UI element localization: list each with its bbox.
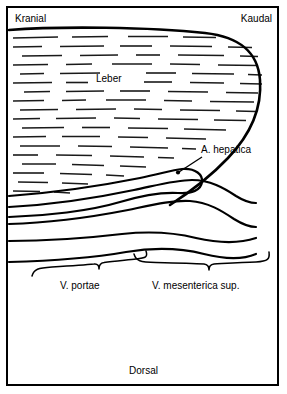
label-a-hepatica: A. hepatica (201, 145, 251, 155)
diagram-artwork (0, 0, 287, 394)
hepatic-artery-outline (9, 169, 202, 217)
label-leber: Leber (96, 74, 122, 84)
liver-hatching (13, 37, 262, 194)
portal-vein-brace (32, 251, 147, 276)
label-dorsal: Dorsal (0, 366, 287, 376)
anatomy-diagram: Kranial Kaudal Leber A. hepatica V. port… (0, 0, 287, 394)
mesenteric-vein-brace (134, 252, 269, 270)
label-kranial: Kranial (15, 14, 46, 24)
label-kaudal: Kaudal (241, 14, 272, 24)
label-v-mesenterica-sup: V. mesenterica sup. (152, 281, 239, 291)
label-v-portae: V. portae (60, 281, 100, 291)
mesenteric-vein-upper-wall (9, 232, 256, 242)
